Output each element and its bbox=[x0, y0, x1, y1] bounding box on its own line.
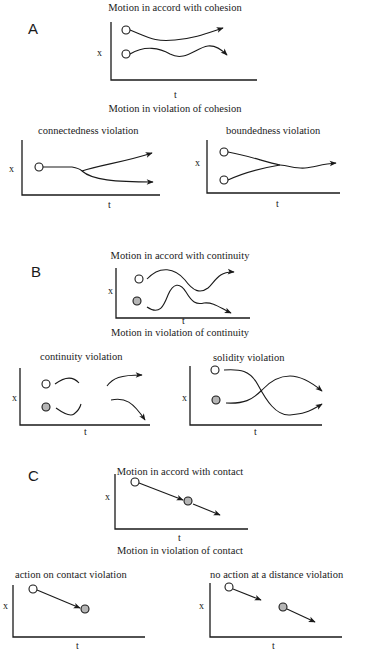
section-c-violation-title: Motion in violation of contact bbox=[117, 545, 243, 556]
connectedness-violation-label: connectedness violation bbox=[38, 125, 139, 136]
x-axis-label: t bbox=[272, 640, 275, 651]
boundedness-violation-plot: boundedness violation x t bbox=[195, 125, 340, 209]
continuity-violation-plot: continuity violation x t bbox=[12, 351, 150, 437]
section-b-letter: B bbox=[31, 263, 41, 280]
trajectory-white bbox=[139, 483, 183, 500]
no-action-at-a-distance-violation-label: no action at a distance violation bbox=[210, 569, 344, 580]
trajectory-lower bbox=[130, 46, 227, 57]
connectedness-violation-plot: connectedness violation x t bbox=[9, 125, 160, 210]
boundedness-violation-label: boundedness violation bbox=[226, 125, 321, 136]
object-white-icon bbox=[122, 26, 130, 34]
action-on-contact-violation-label: action on contact violation bbox=[15, 569, 127, 580]
x-axis-label: t bbox=[276, 198, 279, 209]
object-grey-icon bbox=[133, 297, 141, 305]
trajectory-white bbox=[147, 270, 234, 291]
trajectory-grey bbox=[147, 285, 231, 313]
cohesion-accord-plot: x t bbox=[97, 22, 257, 100]
trajectory-grey bbox=[226, 376, 322, 403]
object-grey-icon bbox=[212, 396, 220, 404]
trajectory-upper-branch bbox=[82, 153, 152, 171]
object-grey-icon bbox=[42, 403, 50, 411]
y-axis-label: x bbox=[182, 392, 187, 403]
x-axis-label: t bbox=[84, 426, 87, 437]
x-axis-label: t bbox=[174, 89, 177, 100]
trajectory-white bbox=[233, 589, 261, 600]
y-axis-label: x bbox=[199, 600, 204, 611]
y-axis-label: x bbox=[195, 157, 200, 168]
section-c: Motion in accord with contact C x t Moti… bbox=[3, 466, 344, 651]
y-axis-label: x bbox=[108, 285, 113, 296]
trajectory-white bbox=[224, 370, 322, 415]
y-axis-label: x bbox=[12, 392, 17, 403]
section-a: Motion in accord with cohesion A x t Mot… bbox=[9, 2, 340, 210]
section-b: Motion in accord with continuity B x t M… bbox=[12, 250, 322, 437]
y-axis-label: x bbox=[9, 163, 14, 174]
section-b-violation-title: Motion in violation of continuity bbox=[111, 327, 250, 338]
no-action-at-a-distance-violation-plot: no action at a distance violation x t bbox=[199, 569, 344, 651]
object-white-icon bbox=[42, 380, 50, 388]
object-white-icon bbox=[29, 585, 37, 593]
trajectory-merged bbox=[280, 163, 336, 168]
section-c-letter: C bbox=[28, 467, 39, 484]
trajectory-upper bbox=[130, 28, 223, 41]
object-grey-icon bbox=[279, 603, 287, 611]
trajectory-grey bbox=[193, 504, 220, 515]
y-axis-label: x bbox=[3, 600, 8, 611]
object-white-icon bbox=[225, 583, 233, 591]
trajectory-grey bbox=[287, 609, 315, 622]
section-a-violation-title: Motion in violation of cohesion bbox=[109, 103, 243, 114]
object-grey-icon bbox=[81, 605, 89, 613]
section-a-accord-title: Motion in accord with cohesion bbox=[108, 2, 242, 13]
trajectory-origin bbox=[43, 167, 82, 171]
contact-accord-plot: x t bbox=[105, 474, 248, 543]
section-a-letter: A bbox=[28, 20, 38, 37]
x-axis-label: t bbox=[254, 426, 257, 437]
object-white-icon bbox=[35, 163, 43, 171]
section-b-accord-title: Motion in accord with continuity bbox=[111, 250, 251, 261]
continuity-violation-label: continuity violation bbox=[40, 351, 123, 362]
cohesion-continuity-contact-diagram: Motion in accord with cohesion A x t Mot… bbox=[0, 0, 370, 654]
trajectory-upper bbox=[228, 152, 280, 165]
section-c-accord-title: Motion in accord with contact bbox=[117, 466, 244, 477]
y-axis-label: x bbox=[105, 491, 110, 502]
trajectory-lower bbox=[228, 165, 280, 180]
object-white-icon bbox=[135, 275, 143, 283]
x-axis-label: t bbox=[182, 315, 185, 326]
object-white-icon bbox=[131, 478, 139, 486]
object-grey-icon bbox=[184, 497, 192, 505]
x-axis-label: t bbox=[76, 640, 79, 651]
trajectory-white-segment-2 bbox=[107, 375, 142, 386]
object-white-icon bbox=[211, 366, 219, 374]
solidity-violation-plot: solidity violation x t bbox=[182, 352, 322, 437]
axes bbox=[20, 368, 150, 425]
x-axis-label: t bbox=[178, 532, 181, 543]
trajectory-white bbox=[37, 590, 80, 608]
x-axis-label: t bbox=[108, 199, 111, 210]
object-white-icon bbox=[220, 176, 228, 184]
y-axis-label: x bbox=[97, 47, 102, 58]
object-white-icon bbox=[122, 50, 130, 58]
continuity-accord-plot: x t bbox=[108, 268, 250, 326]
object-white-icon bbox=[220, 148, 228, 156]
trajectory-lower-branch bbox=[82, 171, 153, 182]
trajectory-grey-segment-2 bbox=[111, 399, 145, 420]
trajectory-grey-segment-1 bbox=[56, 404, 81, 415]
action-on-contact-violation-plot: action on contact violation x t bbox=[3, 569, 145, 651]
solidity-violation-label: solidity violation bbox=[213, 352, 285, 363]
trajectory-white-segment-1 bbox=[55, 378, 79, 384]
